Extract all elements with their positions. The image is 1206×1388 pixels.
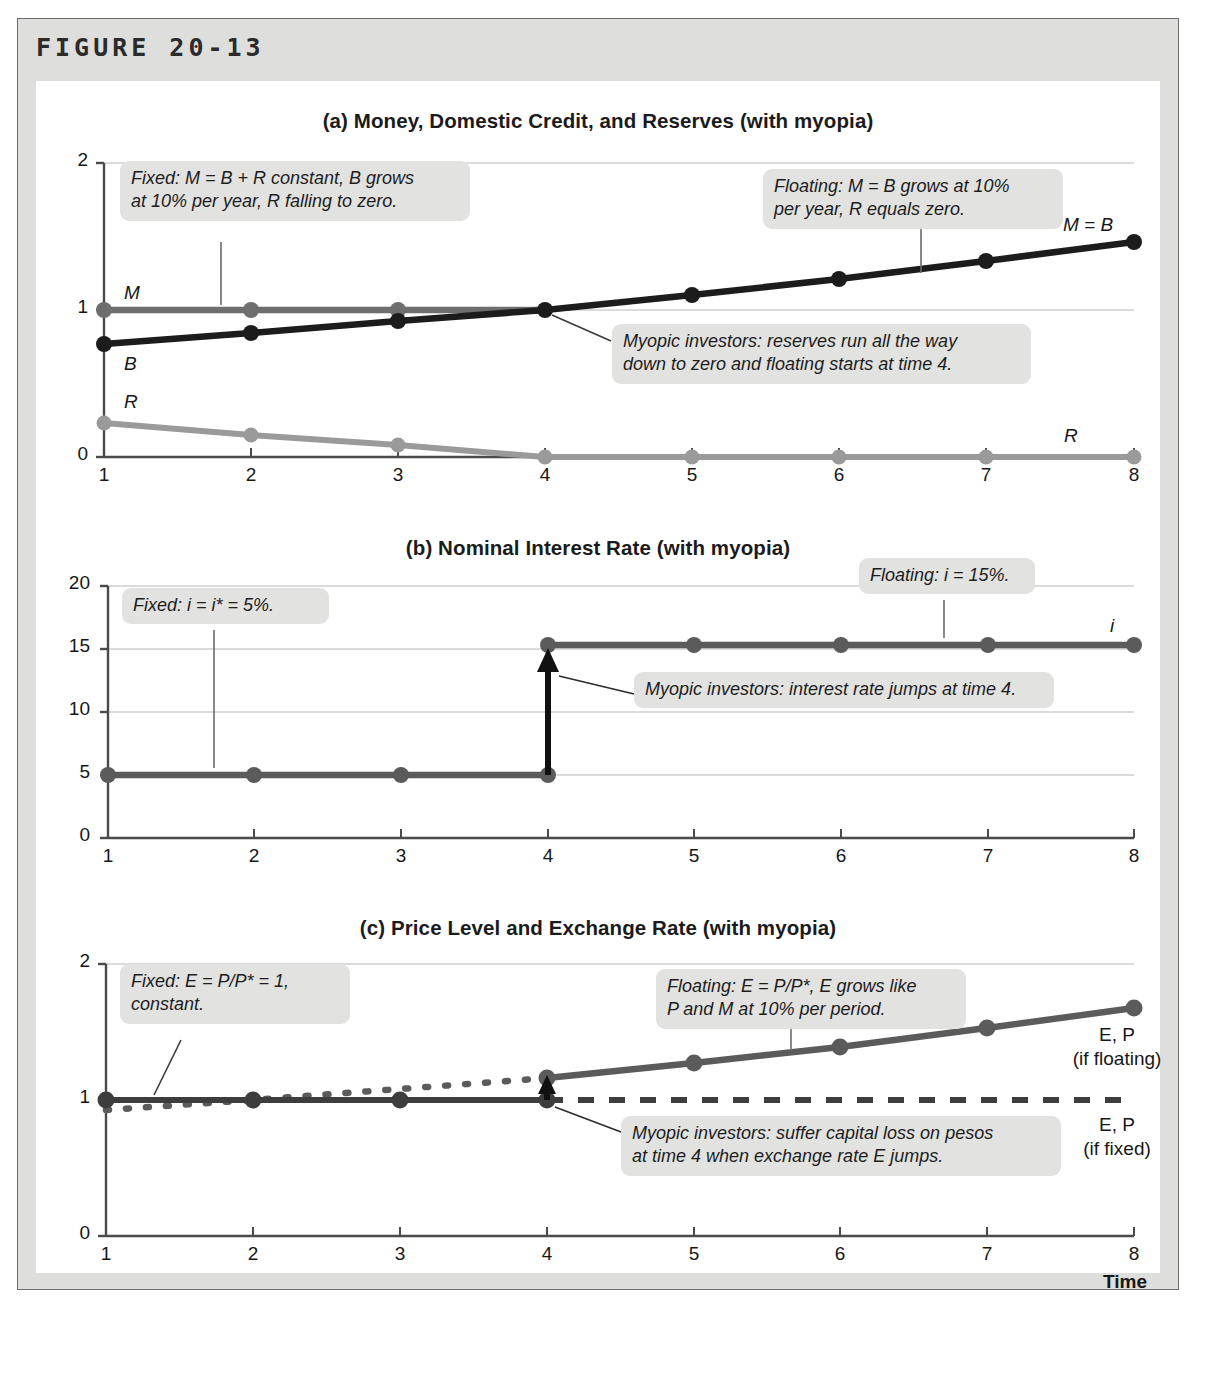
series-interest-fixed bbox=[100, 767, 556, 783]
panel-c-callout-myopic: Myopic investors: suffer capital loss on… bbox=[621, 1116, 1061, 1176]
panel-a-callout-floating: Floating: M = B grows at 10% per year, R… bbox=[763, 169, 1063, 229]
panel-b-ytick-20: 20 bbox=[46, 572, 90, 594]
panel-c-label-floating: E, P (if floating) bbox=[1054, 1023, 1180, 1071]
panel-c-xtick-5: 5 bbox=[679, 1243, 709, 1265]
panel-b-label-i: i bbox=[1110, 614, 1114, 638]
figure-inner-panel: (a) Money, Domestic Credit, and Reserves… bbox=[36, 81, 1160, 1273]
panel-a-callout-fixed: Fixed: M = B + R constant, B grows at 10… bbox=[120, 161, 470, 221]
panel-c-xtick-4: 4 bbox=[532, 1243, 562, 1265]
panel-b-xtick-6: 6 bbox=[826, 845, 856, 867]
panel-c-xtick-6: 6 bbox=[825, 1243, 855, 1265]
panel-b-title: (b) Nominal Interest Rate (with myopia) bbox=[36, 536, 1160, 560]
panel-c-xaxis-title: Time bbox=[1057, 1271, 1147, 1293]
panel-c-leader-lines bbox=[154, 1012, 791, 1132]
panel-c-ytick-1: 1 bbox=[58, 1086, 90, 1108]
figure-number-label: FIGURE 20-13 bbox=[36, 33, 265, 62]
panel-a-ytick-2: 2 bbox=[58, 149, 88, 171]
panel-b-xtick-4: 4 bbox=[533, 845, 563, 867]
figure-frame: FIGURE 20-13 (a) Money, Domestic Credit,… bbox=[17, 18, 1179, 1290]
panel-a-label-B: B bbox=[124, 352, 137, 376]
panel-b-ytick-0: 0 bbox=[46, 824, 90, 846]
panel-a-xtick-5: 5 bbox=[677, 464, 707, 486]
panel-a-xtick-2: 2 bbox=[236, 464, 266, 486]
panel-b-xtick-1: 1 bbox=[93, 845, 123, 867]
panel-c-callout-floating: Floating: E = P/P*, E grows like P and M… bbox=[656, 969, 966, 1029]
panel-a-label-R-end: R bbox=[1064, 424, 1078, 448]
panel-c-xtick-3: 3 bbox=[385, 1243, 415, 1265]
panel-a-ytick-1: 1 bbox=[58, 296, 88, 318]
panel-a-title: (a) Money, Domestic Credit, and Reserves… bbox=[36, 109, 1160, 133]
series-price-shadow-dotted bbox=[106, 1078, 547, 1110]
panel-a-leader-lines bbox=[221, 215, 921, 341]
panel-a-xtick-4: 4 bbox=[530, 464, 560, 486]
panel-c-ytick-0: 0 bbox=[58, 1222, 90, 1244]
panel-b-xtick-7: 7 bbox=[973, 845, 1003, 867]
panel-a: (a) Money, Domestic Credit, and Reserves… bbox=[36, 109, 1160, 509]
panel-c-xtick-7: 7 bbox=[972, 1243, 1002, 1265]
panel-b-xtick-8: 8 bbox=[1119, 845, 1149, 867]
panel-c-title: (c) Price Level and Exchange Rate (with … bbox=[36, 916, 1160, 940]
panel-b-callout-fixed: Fixed: i = i* = 5%. bbox=[122, 588, 329, 624]
panel-b-ytick-10: 10 bbox=[46, 698, 90, 720]
panel-a-callout-myopic: Myopic investors: reserves run all the w… bbox=[612, 324, 1031, 384]
panel-b-callout-floating: Floating: i = 15%. bbox=[859, 558, 1035, 594]
panel-c-ytick-2: 2 bbox=[58, 950, 90, 972]
panel-c-xtick-8: 8 bbox=[1119, 1243, 1149, 1265]
panel-b-xtick-5: 5 bbox=[679, 845, 709, 867]
panel-b-ytick-15: 15 bbox=[46, 635, 90, 657]
panel-a-label-R: R bbox=[124, 390, 138, 414]
panel-c-label-fixed: E, P (if fixed) bbox=[1054, 1113, 1180, 1161]
panel-b: (b) Nominal Interest Rate (with myopia) bbox=[36, 536, 1160, 896]
panel-a-label-M: M bbox=[124, 281, 140, 305]
panel-b-xtick-2: 2 bbox=[239, 845, 269, 867]
panel-c: (c) Price Level and Exchange Rate (with … bbox=[36, 916, 1160, 1276]
panel-c-callout-fixed: Fixed: E = P/P* = 1, constant. bbox=[120, 964, 350, 1024]
panel-a-xtick-1: 1 bbox=[89, 464, 119, 486]
panel-a-xtick-3: 3 bbox=[383, 464, 413, 486]
panel-a-label-MB: M = B bbox=[1063, 213, 1113, 237]
panel-c-xtick-2: 2 bbox=[238, 1243, 268, 1265]
panel-b-callout-myopic: Myopic investors: interest rate jumps at… bbox=[634, 672, 1054, 708]
panel-b-ytick-5: 5 bbox=[46, 761, 90, 783]
panel-a-xtick-6: 6 bbox=[824, 464, 854, 486]
panel-a-xtick-8: 8 bbox=[1119, 464, 1149, 486]
series-interest-floating bbox=[540, 637, 1142, 653]
panel-b-xtick-3: 3 bbox=[386, 845, 416, 867]
panel-c-xtick-1: 1 bbox=[91, 1243, 121, 1265]
panel-a-xtick-7: 7 bbox=[971, 464, 1001, 486]
panel-a-ytick-0: 0 bbox=[58, 443, 88, 465]
